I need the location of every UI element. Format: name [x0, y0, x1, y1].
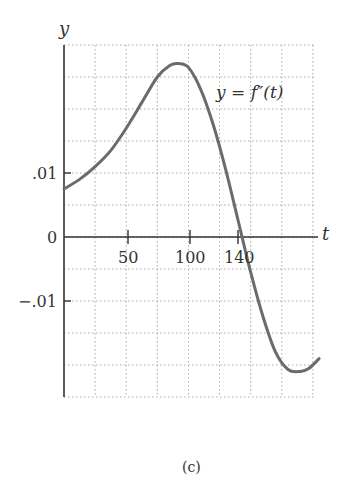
- y-tick-label-neg01: −.01: [18, 294, 57, 310]
- y-axis-label: y: [59, 20, 69, 38]
- y-tick-label-01: .01: [32, 166, 57, 182]
- curve-label: y = f″(t): [216, 84, 283, 101]
- x-tick-label-100: 100: [175, 250, 206, 266]
- x-axis-label: t: [322, 225, 329, 243]
- x-tick-label-140: 140: [224, 250, 255, 266]
- f-double-prime-curve: [64, 63, 319, 371]
- y-tick-label-0: 0: [47, 230, 57, 246]
- figure-caption: (c): [182, 460, 201, 474]
- x-tick-label-50: 50: [118, 250, 138, 266]
